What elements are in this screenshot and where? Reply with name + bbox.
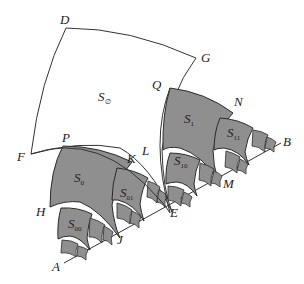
label-point-p: P (61, 130, 70, 145)
label-point-m: M (222, 176, 235, 191)
label-point-f: F (16, 149, 26, 164)
tiling-diagram: D G Q N P F K L B M H E J A S∅ S0 S01 S0… (0, 0, 304, 284)
label-point-l: L (141, 143, 149, 158)
label-point-e: E (169, 205, 178, 220)
label-region-root: S∅ (98, 89, 111, 106)
label-point-g: G (201, 50, 211, 65)
label-point-n: N (233, 94, 244, 109)
label-point-h: H (35, 204, 46, 219)
label-point-a: A (51, 259, 60, 274)
label-point-b: B (283, 134, 291, 149)
diagram-canvas: D G Q N P F K L B M H E J A S∅ S0 S01 S0… (0, 0, 304, 284)
label-point-k: K (126, 151, 137, 166)
label-point-j: J (117, 232, 124, 247)
label-point-q: Q (152, 77, 162, 92)
label-point-d: D (59, 12, 70, 27)
